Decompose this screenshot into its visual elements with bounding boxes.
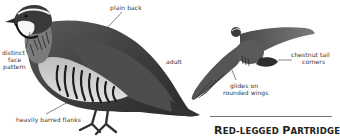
eye — [24, 14, 27, 17]
species-title: RED-LEGGED PARTRIDGE — [214, 124, 340, 137]
label-adult: adult — [166, 58, 182, 65]
label-tail-1: chestnut tail — [291, 51, 330, 58]
beak — [5, 18, 15, 23]
standing-partridge — [5, 5, 200, 134]
label-face-pattern-2: face — [8, 56, 21, 63]
title-cap-1: R — [214, 124, 223, 137]
title-rest-2: ARTRIDGE — [290, 126, 340, 136]
label-plain-back: plain back — [110, 4, 142, 11]
leader-plain-back — [107, 12, 122, 28]
title-rule — [210, 116, 332, 117]
leader-flanks — [46, 100, 72, 114]
title-rest-1: ED-LEGGED — [223, 126, 283, 136]
label-flanks: heavily barred flanks — [16, 116, 81, 123]
label-glides-1: glides on — [230, 82, 258, 89]
label-tail-2: corners — [302, 58, 325, 65]
label-glides-2: rounded wings — [223, 89, 268, 96]
label-face-pattern-3: pattern — [3, 63, 26, 70]
leader-glides — [232, 70, 236, 80]
label-face-pattern-1: distinct — [2, 49, 25, 56]
legs — [80, 110, 116, 134]
